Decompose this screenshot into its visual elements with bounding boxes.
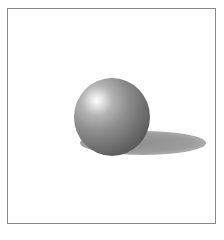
shaded-sphere: [74, 78, 150, 156]
